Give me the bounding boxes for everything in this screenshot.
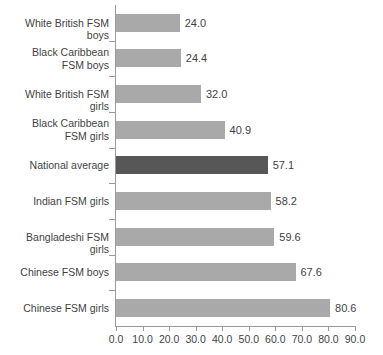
category-tick [109, 148, 115, 149]
bar-value-label: 24.0 [180, 14, 206, 32]
category-label: Chinese FSM boys [5, 266, 109, 279]
bar [116, 299, 330, 317]
category-label: Black Caribbean FSM girls [5, 117, 109, 142]
category-tick [109, 76, 115, 77]
value-tick-label: 40.0 [212, 333, 232, 346]
value-tick [116, 326, 117, 331]
bar-row: 58.2 [116, 183, 355, 219]
bar [116, 14, 180, 32]
bar [116, 121, 225, 139]
bar-row: 67.6 [116, 255, 355, 291]
value-tick-label: 0.0 [109, 333, 124, 346]
value-tick-label: 60.0 [265, 333, 285, 346]
value-tick [328, 326, 329, 331]
bar-value-label: 24.4 [181, 49, 207, 67]
bar [116, 85, 201, 103]
value-tick [249, 326, 250, 331]
value-tick [275, 326, 276, 331]
category-tick [109, 290, 115, 291]
value-tick-label: 30.0 [185, 333, 205, 346]
bar [116, 156, 268, 174]
category-tick [109, 255, 115, 256]
category-label: Indian FSM girls [5, 195, 109, 208]
bar [116, 263, 296, 281]
bar [116, 192, 271, 210]
category-tick [109, 183, 115, 184]
bar-value-label: 58.2 [271, 192, 297, 210]
bar-row: 24.4 [116, 41, 355, 77]
value-tick [222, 326, 223, 331]
bar-value-label: 67.6 [296, 263, 322, 281]
bar-chart: 24.024.432.040.957.158.259.667.680.6 0.0… [0, 0, 383, 355]
category-tick [109, 219, 115, 220]
bar-value-label: 40.9 [225, 121, 251, 139]
category-tick [109, 112, 115, 113]
value-tick [196, 326, 197, 331]
bar-row: 59.6 [116, 219, 355, 255]
bar-value-label: 32.0 [201, 85, 227, 103]
value-tick-label: 10.0 [132, 333, 152, 346]
category-tick [109, 41, 115, 42]
bar-row: 40.9 [116, 112, 355, 148]
value-tick-label: 90.0 [345, 333, 365, 346]
value-tick-label: 80.0 [318, 333, 338, 346]
bar-value-label: 57.1 [268, 156, 294, 174]
bar-row: 80.6 [116, 290, 355, 326]
value-tick [169, 326, 170, 331]
bar-row: 24.0 [116, 5, 355, 41]
category-label: Bangladeshi FSM girls [5, 231, 109, 256]
category-label: White British FSM boys [5, 17, 109, 42]
bar-row: 57.1 [116, 148, 355, 184]
value-tick [302, 326, 303, 331]
value-tick-label: 50.0 [239, 333, 259, 346]
bar-row: 32.0 [116, 76, 355, 112]
category-label: Black Caribbean FSM boys [5, 46, 109, 71]
value-tick [143, 326, 144, 331]
value-axis-line [115, 326, 355, 327]
value-tick-label: 20.0 [159, 333, 179, 346]
value-tick [355, 326, 356, 331]
category-label: National average [5, 159, 109, 172]
bar [116, 228, 274, 246]
bar-value-label: 80.6 [330, 299, 356, 317]
bar-value-label: 59.6 [274, 228, 300, 246]
bar [116, 49, 181, 67]
value-tick-label: 70.0 [292, 333, 312, 346]
category-label: Chinese FSM girls [5, 302, 109, 315]
category-label: White British FSM girls [5, 88, 109, 113]
